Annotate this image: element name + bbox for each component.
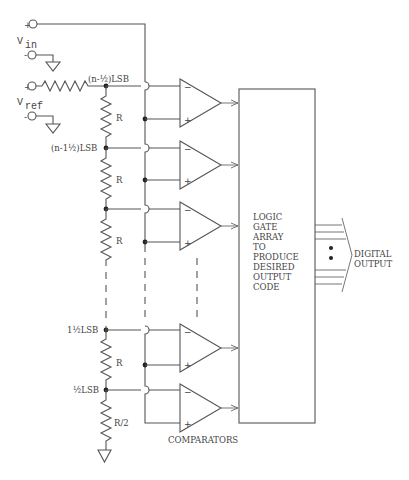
ground-icon <box>46 62 60 71</box>
comparator-5: − + <box>180 384 238 432</box>
flash-adc-diagram: + V in - + V ref - (n-½)LSB R <box>0 0 409 480</box>
resistor-icon <box>101 148 111 209</box>
svg-text:ref: ref <box>25 101 43 112</box>
resistor-icon <box>101 86 111 148</box>
svg-text:−: − <box>184 327 192 337</box>
vin-minus-terminal: - <box>24 50 60 71</box>
svg-text:+: + <box>184 419 192 429</box>
svg-text:PRODUCE: PRODUCE <box>253 252 299 262</box>
comparator-4: − + <box>180 324 238 372</box>
comparator-1: − + <box>180 79 238 127</box>
svg-text:+: + <box>184 238 192 248</box>
svg-text:R: R <box>116 358 123 368</box>
svg-text:−: − <box>184 205 192 215</box>
svg-text:R: R <box>116 113 123 123</box>
svg-text:OUTPUT: OUTPUT <box>354 259 393 269</box>
svg-text:R: R <box>116 175 123 185</box>
svg-text:+: + <box>184 115 192 125</box>
resistor-ladder: (n-½)LSB R (n-1½)LSB R R 1½LSB R ½LSB R/… <box>51 74 129 462</box>
digital-output-label: DIGITAL <box>354 249 392 259</box>
vin-bus <box>143 82 180 423</box>
ground-icon <box>98 450 111 462</box>
svg-text:−: − <box>184 144 192 154</box>
vref-label: V ref <box>17 97 43 112</box>
ground-icon <box>46 124 60 133</box>
svg-text:R: R <box>116 236 123 246</box>
svg-text:+: + <box>184 176 192 186</box>
node-label-n-half: (n-½)LSB <box>88 74 129 84</box>
comparator-3: − + <box>180 202 238 250</box>
svg-text:GATE: GATE <box>253 222 277 232</box>
svg-text:-: - <box>24 112 27 122</box>
svg-text:DESIRED: DESIRED <box>253 262 295 272</box>
node-label-1-half: 1½LSB <box>67 325 98 335</box>
node-label-half: ½LSB <box>73 385 99 395</box>
vref-minus-terminal: - <box>24 112 60 133</box>
svg-text:V: V <box>17 97 23 108</box>
svg-text:−: − <box>184 387 192 397</box>
digital-output-bus: DIGITAL OUTPUT <box>315 218 393 292</box>
svg-text:+: + <box>184 360 192 370</box>
svg-text:−: − <box>184 82 192 92</box>
svg-text:OUTPUT: OUTPUT <box>253 272 292 282</box>
vin-plus-terminal: + <box>24 20 145 82</box>
svg-text:LOGIC: LOGIC <box>253 212 282 222</box>
svg-text:CODE: CODE <box>253 282 280 292</box>
comparator-2: − + <box>180 141 238 189</box>
resistor-icon <box>101 330 111 390</box>
svg-text:-: - <box>24 50 27 60</box>
node-label-n-1-half: (n-1½)LSB <box>51 143 97 153</box>
vin-label: V in <box>17 36 37 51</box>
resistor-icon <box>101 209 111 266</box>
comparators-label: COMPARATORS <box>168 435 238 445</box>
svg-text:R/2: R/2 <box>114 418 129 428</box>
svg-text:TO: TO <box>253 242 266 252</box>
svg-text:ARRAY: ARRAY <box>252 232 284 242</box>
resistor-icon <box>101 390 111 450</box>
svg-text:V: V <box>17 36 23 47</box>
logic-gate-array-block: LOGIC GATE ARRAY TO PRODUCE DESIRED OUTP… <box>239 89 315 423</box>
